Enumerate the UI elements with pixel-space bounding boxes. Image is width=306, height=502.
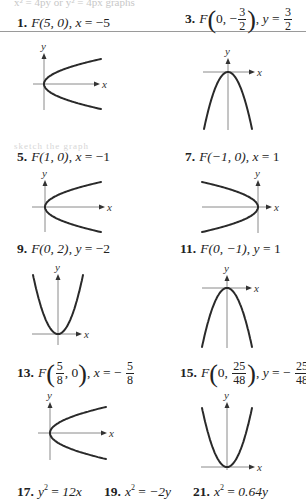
graph-g3: yx	[203, 45, 262, 130]
x-axis-label: x	[253, 282, 259, 294]
x-axis-arrow-icon	[76, 332, 82, 337]
x-axis-label: x	[108, 427, 114, 439]
graph-g11: yx	[202, 262, 259, 348]
y-axis-label: y	[40, 40, 46, 52]
y-axis-arrow-icon	[42, 53, 47, 59]
x-axis-label: x	[256, 66, 262, 78]
y-axis-arrow-icon	[226, 58, 231, 64]
x-axis-arrow-icon	[266, 205, 272, 210]
y-axis-label: y	[223, 262, 229, 274]
y-axis-label: y	[254, 167, 260, 179]
x-axis-label: x	[106, 201, 112, 213]
y-axis-arrow-icon	[256, 180, 261, 186]
graph-g1: yx	[33, 40, 107, 110]
y-axis-label: y	[46, 389, 52, 401]
x-axis-arrow-icon	[101, 431, 107, 436]
graph-g5: yx	[32, 167, 112, 232]
graph-g15: yx	[201, 389, 262, 473]
y-axis-label: y	[54, 261, 60, 273]
x-axis-arrow-icon	[94, 82, 100, 87]
x-axis-arrow-icon	[99, 205, 105, 210]
graph-g13: yx	[38, 389, 114, 460]
y-axis-label: y	[224, 45, 230, 57]
x-axis-label: x	[256, 461, 262, 473]
x-axis-arrow-icon	[246, 286, 252, 291]
x-axis-label: x	[273, 201, 279, 213]
y-axis-label: y	[223, 389, 229, 401]
parabola-graphs: yxyxyxyxyxyxyxyx	[0, 0, 306, 502]
x-axis-arrow-icon	[249, 465, 255, 470]
y-axis-label: y	[41, 167, 47, 179]
graph-g9: yx	[32, 261, 89, 345]
y-axis-arrow-icon	[225, 275, 230, 281]
y-axis-arrow-icon	[225, 402, 230, 408]
y-axis-arrow-icon	[56, 274, 61, 280]
graph-g7: yx	[202, 167, 279, 233]
y-axis-arrow-icon	[48, 402, 53, 408]
x-axis-label: x	[83, 328, 89, 340]
y-axis-arrow-icon	[43, 180, 48, 186]
x-axis-label: x	[101, 78, 107, 90]
x-axis-arrow-icon	[249, 70, 255, 75]
